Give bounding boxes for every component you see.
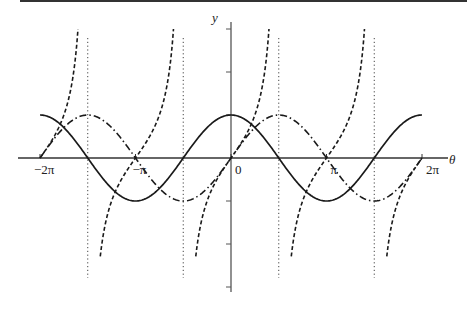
axis-labels: −2π−π0π2πθy (34, 10, 456, 177)
x-tick-label: −π (132, 162, 146, 177)
x-tick-label: −2π (34, 162, 55, 177)
x-tick-label: 2π (426, 162, 440, 177)
trig-plot: −2π−π0π2πθy (0, 0, 467, 314)
x-tick-label: 0 (235, 162, 242, 177)
tan-curve (40, 29, 78, 158)
axes (18, 22, 448, 292)
tan-curve (387, 158, 422, 256)
tan-curve (291, 29, 364, 256)
tan-curve (196, 29, 269, 256)
y-axis-label: y (210, 10, 218, 25)
x-tick-label: π (331, 162, 338, 177)
x-axis-label: θ (449, 152, 456, 167)
tan-curve (100, 29, 173, 256)
